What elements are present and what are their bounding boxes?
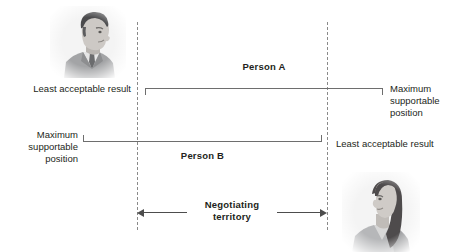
- man-portrait-photo: [50, 6, 126, 78]
- arrow-head-right: [320, 209, 327, 217]
- person-a-label: Person A: [145, 61, 383, 72]
- woman-portrait-photo: [342, 172, 420, 252]
- person-a-range-bracket: [145, 88, 383, 96]
- negotiation-diagram: Person A Least acceptable result Maximum…: [0, 0, 464, 252]
- person-b-range-bracket: [83, 134, 322, 142]
- person-b-label: Person B: [83, 150, 322, 161]
- person-a-bracket-bar: [145, 88, 383, 89]
- negotiating-territory-arrow: [137, 207, 327, 219]
- boundary-line-right: [327, 22, 328, 230]
- person-b-maximum-supportable-position-label: Maximum supportable position: [4, 129, 78, 165]
- person-b-least-acceptable-result-label: Least acceptable result: [336, 138, 456, 150]
- person-b-bracket-bar: [83, 141, 322, 142]
- person-a-maximum-supportable-position-label: Maximum supportable position: [390, 83, 462, 119]
- arrow-shaft-right: [277, 212, 321, 213]
- person-b-bracket-tick-left: [83, 135, 84, 142]
- person-a-bracket-tick-left: [145, 88, 146, 95]
- person-b-bracket-tick-right: [321, 135, 322, 142]
- person-a-bracket-tick-right: [382, 88, 383, 95]
- person-a-least-acceptable-result-label: Least acceptable result: [18, 83, 131, 95]
- arrow-shaft-left: [143, 212, 187, 213]
